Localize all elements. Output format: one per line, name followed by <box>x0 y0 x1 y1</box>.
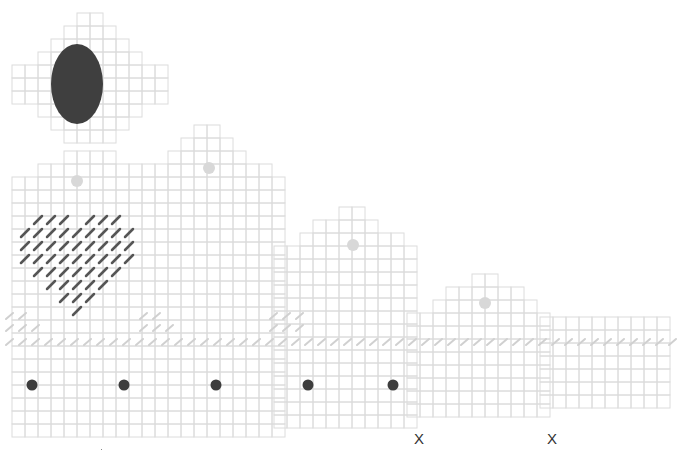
light-dot-marker <box>479 297 491 309</box>
light-stitch <box>344 339 351 345</box>
light-stitch <box>383 339 390 345</box>
light-stitch <box>153 325 160 331</box>
dark-dot-marker <box>388 380 399 391</box>
pattern-canvas <box>0 0 679 454</box>
light-stitch <box>461 339 468 345</box>
heart-piece <box>12 151 142 437</box>
cut-mark-label-1: X <box>414 430 424 447</box>
light-stitch <box>422 339 429 345</box>
house-piece-3 <box>407 274 550 417</box>
light-stitch <box>474 339 481 345</box>
light-stitch <box>370 339 377 345</box>
light-stitch <box>526 339 533 345</box>
light-stitch <box>331 339 338 345</box>
light-dot-marker <box>71 175 83 187</box>
light-dot-marker <box>203 162 215 174</box>
light-stitch <box>396 339 403 345</box>
base-strip-piece <box>540 317 670 408</box>
light-stitch <box>500 339 507 345</box>
light-stitch <box>487 339 494 345</box>
light-stitch <box>448 339 455 345</box>
dark-dot-marker <box>211 380 222 391</box>
oval-shape <box>51 44 103 124</box>
light-stitch <box>435 339 442 345</box>
light-stitch <box>153 313 160 319</box>
light-stitch <box>292 339 299 345</box>
cut-mark-label-2: X <box>547 430 557 447</box>
light-stitch <box>409 339 416 345</box>
dark-dot-marker <box>27 380 38 391</box>
light-stitch <box>513 339 520 345</box>
light-stitch <box>140 325 147 331</box>
stray-dot <box>101 449 102 450</box>
light-stitch <box>318 339 325 345</box>
light-stitch <box>357 339 364 345</box>
light-dot-marker <box>347 239 359 251</box>
dark-dot-marker <box>119 380 130 391</box>
light-stitch <box>166 325 173 331</box>
light-stitch <box>140 313 147 319</box>
dark-dot-marker <box>303 380 314 391</box>
house-piece-2 <box>274 207 417 428</box>
light-stitch <box>305 339 312 345</box>
